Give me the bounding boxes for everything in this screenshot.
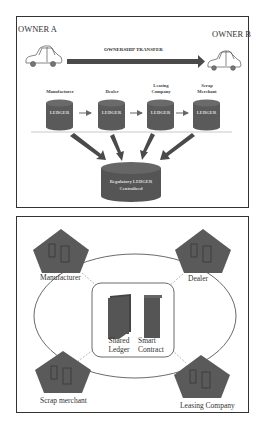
node-label-manufacturer: Manufacturer	[40, 273, 81, 282]
ledger-party-label: Leasing Company	[143, 83, 179, 95]
node-pentagon-scrap-merchant	[35, 351, 91, 393]
node-pentagon-manufacturer	[33, 229, 89, 273]
owner-a-label: OWNER A	[18, 24, 57, 34]
shared-ledger-icon	[108, 294, 131, 339]
ledger-cylinder	[46, 100, 73, 131]
node-pentagon-leasing-company	[174, 355, 230, 398]
ledger-party-label: Dealer	[94, 89, 130, 95]
car-icon	[208, 51, 241, 71]
ledger-label: LEDGER	[98, 110, 125, 115]
ownership-transfer-label: OWNERSHIP TRANSFER	[104, 47, 163, 52]
ledger-cylinder	[147, 100, 174, 131]
node-label-leasing-company: Leasing Company	[180, 401, 235, 410]
ledger-party-label: Scrap Merchant	[189, 83, 225, 95]
ledger-cylinder	[193, 100, 220, 131]
node-label-scrap-merchant: Scrap merchant	[40, 396, 87, 405]
smart-contract-icon	[144, 295, 162, 338]
ledger-party-label: Manufacturer	[42, 89, 78, 95]
aggregate-arrows	[70, 133, 195, 161]
car-icon	[26, 46, 62, 67]
ledger-label: LEDGER	[147, 110, 174, 115]
ledger-cylinder	[98, 100, 125, 131]
ledger-label: LEDGER	[193, 110, 220, 115]
owner-b-label: OWNER B	[212, 29, 251, 39]
ownership-transfer-arrow	[67, 55, 205, 68]
node-label-dealer: Dealer	[188, 274, 208, 283]
smart-contract-label: Smart Contract	[138, 336, 172, 354]
shared-ledger-label: Shared Ledger	[106, 336, 132, 354]
ledger-label: LEDGER	[46, 110, 73, 115]
central-ledger-label: Regulatory LEDGER Centralized	[101, 178, 161, 192]
diagram-graphics	[0, 0, 261, 421]
node-pentagon-dealer	[175, 229, 231, 273]
